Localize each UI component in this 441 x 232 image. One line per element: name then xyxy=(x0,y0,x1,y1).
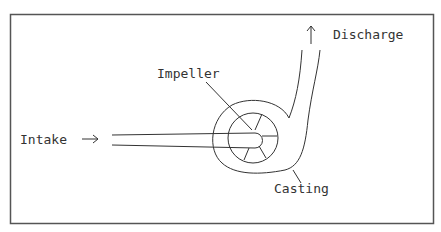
intake-pipe xyxy=(112,133,263,148)
impeller-leader xyxy=(206,82,252,130)
discharge-label: Discharge xyxy=(333,27,404,42)
diagram-frame xyxy=(11,15,434,224)
casting-label: Casting xyxy=(274,181,329,196)
discharge-arrow-icon xyxy=(307,26,315,44)
pump-diagram: Intake Impeller Discharge Casting xyxy=(0,0,441,232)
impeller-circle xyxy=(228,113,278,163)
intake-label: Intake xyxy=(20,132,67,147)
impeller-vane xyxy=(259,146,266,158)
intake-arrow-icon xyxy=(82,135,98,143)
impeller-label: Impeller xyxy=(157,66,220,81)
casing-volute-inner-curve xyxy=(289,50,302,118)
casing-volute-outer xyxy=(213,50,320,173)
impeller-vane xyxy=(244,148,249,160)
impeller-vane xyxy=(255,114,262,130)
